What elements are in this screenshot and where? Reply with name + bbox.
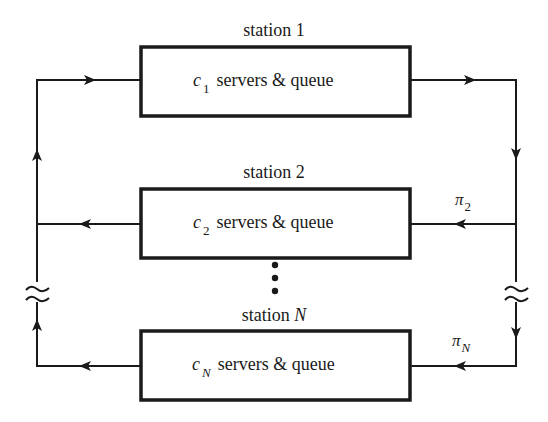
break-mark-right — [505, 287, 528, 302]
flow-line-station1-out — [410, 80, 516, 282]
station-2-title: station 2 — [243, 162, 305, 182]
routing-prob-2: π2 — [455, 190, 471, 214]
station-2-label: c2servers & queue — [193, 212, 333, 238]
flow-line-to-stationn — [410, 302, 516, 366]
queueing-network-diagram: station 1 station 2 station N c1servers … — [0, 0, 548, 422]
break-mark-left — [26, 287, 49, 302]
station-1-title: station 1 — [243, 20, 305, 40]
station-n-label: cNservers & queue — [192, 354, 335, 380]
station-n-title: station N — [242, 305, 308, 325]
flow-line-to-station1 — [37, 80, 141, 282]
ellipsis-dot — [272, 275, 278, 281]
ellipsis-dot — [272, 288, 278, 294]
station-1-label: c1servers & queue — [193, 70, 333, 96]
routing-prob-n: πN — [452, 331, 472, 355]
flow-line-stationn-out — [37, 302, 141, 366]
ellipsis-dot — [272, 262, 278, 268]
